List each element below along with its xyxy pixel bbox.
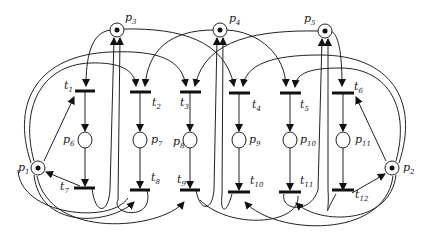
arc-p4-t2 — [145, 30, 214, 86]
transition-t8: t8 — [130, 171, 160, 190]
transition-t12: t12 — [332, 188, 369, 203]
place-p7: p7 — [133, 132, 163, 148]
svg-text:t6: t6 — [354, 80, 363, 95]
svg-text:p2: p2 — [403, 161, 415, 176]
arc-p2-t6 — [356, 97, 386, 161]
transition-t2: t2 — [130, 92, 161, 111]
token — [115, 28, 120, 33]
place-p6: p6 — [63, 132, 92, 148]
arcs — [18, 29, 406, 226]
svg-text:t10: t10 — [250, 174, 264, 189]
svg-text:t2: t2 — [152, 96, 161, 111]
place-p8: p8 — [173, 132, 197, 150]
svg-text:p11: p11 — [355, 133, 371, 148]
svg-text:t4: t4 — [252, 98, 261, 113]
svg-text:t1: t1 — [64, 79, 73, 94]
token — [36, 166, 41, 171]
transition-t11: t11 — [279, 174, 313, 192]
svg-text:p7: p7 — [151, 133, 163, 148]
svg-text:p5: p5 — [304, 12, 316, 27]
place-p1: p1 — [18, 161, 45, 176]
arc-p4-t5 — [227, 30, 286, 86]
arc-p3-t1 — [86, 30, 111, 86]
token — [390, 166, 395, 171]
place-p4: p4 — [213, 12, 241, 37]
arc-p3-t4 — [124, 29, 234, 86]
transition-t9: t9 — [177, 173, 200, 190]
arc-p2-t10 — [245, 176, 393, 226]
transition-t1: t1 — [64, 79, 95, 94]
arc-p5-t6 — [331, 31, 342, 86]
arc-p1-t1 — [44, 97, 74, 161]
arc-t9-p4 — [196, 38, 217, 207]
svg-text:t7: t7 — [60, 180, 69, 195]
transition-t4: t4 — [229, 93, 261, 113]
place-p9: p9 — [232, 132, 261, 148]
token — [218, 28, 223, 33]
transition-t6: t6 — [332, 80, 363, 95]
arc-loop-b — [200, 196, 298, 220]
arc-p5-t3 — [195, 31, 319, 86]
arc-p2-t4 — [243, 55, 406, 163]
svg-text:t3: t3 — [180, 96, 189, 111]
arc-t10-p4 — [222, 38, 232, 209]
svg-text:t8: t8 — [151, 171, 160, 186]
transition-t5: t5 — [280, 93, 309, 113]
place-p10: p10 — [283, 132, 317, 148]
petri-net-diagram: p1 p2 p3 p4 p5 p6 p7 p8 p9 p10 p11 — [0, 0, 429, 239]
svg-text:p9: p9 — [249, 133, 261, 148]
place-p2: p2 — [385, 161, 415, 176]
svg-text:p6: p6 — [63, 133, 75, 148]
arc-t8-p3 — [117, 38, 148, 213]
arc-p1-t8 — [34, 175, 134, 218]
svg-text:p4: p4 — [229, 12, 241, 27]
arc-t12-p5 — [328, 39, 337, 211]
svg-text:p1: p1 — [18, 161, 30, 176]
transition-t10: t10 — [228, 174, 264, 192]
svg-text:t5: t5 — [300, 98, 309, 113]
svg-text:p3: p3 — [125, 11, 137, 26]
transition-t7: t7 — [60, 180, 95, 195]
svg-text:t9: t9 — [177, 173, 186, 188]
place-p11: p11 — [336, 132, 371, 148]
svg-text:t12: t12 — [355, 188, 369, 203]
svg-text:p10: p10 — [300, 133, 317, 148]
place-p5: p5 — [304, 12, 332, 38]
token — [323, 29, 328, 34]
svg-text:t11: t11 — [300, 174, 313, 189]
place-p3: p3 — [110, 11, 137, 37]
